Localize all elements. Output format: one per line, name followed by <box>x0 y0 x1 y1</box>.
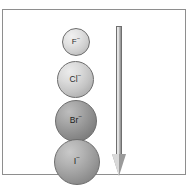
ion-symbol-chloride: Cl <box>69 74 77 84</box>
ion-label-iodide: I− <box>74 157 81 166</box>
ion-symbol-bromide: Br <box>70 115 79 125</box>
ion-circle-fluoride: F− <box>62 28 90 56</box>
ion-charge-fluoride: − <box>77 35 81 41</box>
ion-circle-iodide: I− <box>54 139 100 185</box>
figure-root: F− Cl− Br− I− <box>0 0 195 188</box>
ion-label-fluoride: F− <box>72 38 81 46</box>
diagram-border: F− Cl− Br− I− <box>2 9 186 175</box>
trend-arrow-down-icon <box>110 26 128 178</box>
ion-charge-bromide: − <box>79 113 83 120</box>
ion-label-chloride: Cl− <box>69 75 81 84</box>
arrow-shaft <box>116 26 122 158</box>
ion-circle-chloride: Cl− <box>57 61 94 98</box>
ion-label-bromide: Br− <box>70 116 83 125</box>
ion-charge-chloride: − <box>78 72 82 79</box>
ion-charge-iodide: − <box>76 154 80 161</box>
arrow-head-highlight <box>112 154 119 176</box>
ion-circle-bromide: Br− <box>55 100 97 142</box>
